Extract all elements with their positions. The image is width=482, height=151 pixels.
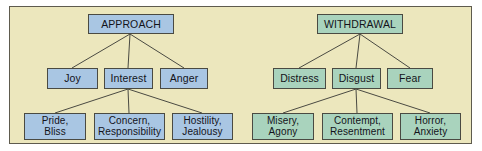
node-concern-responsibility-line1: Concern, [109, 116, 150, 126]
node-hostility-jealousy-line1: Hostility, [183, 116, 221, 126]
node-joy-label: Joy [64, 73, 81, 84]
node-concern-responsibility[interactable]: Concern, Responsibility [94, 113, 165, 140]
node-fear[interactable]: Fear [387, 68, 433, 89]
node-approach[interactable]: APPROACH [88, 14, 174, 34]
node-pride-bliss[interactable]: Pride, Bliss [24, 113, 86, 140]
node-hostility-jealousy[interactable]: Hostility, Jealousy [172, 113, 233, 140]
node-joy[interactable]: Joy [47, 68, 98, 89]
node-horror-anxiety[interactable]: Horror, Anxiety [400, 113, 461, 140]
node-approach-label: APPROACH [101, 19, 161, 30]
node-contempt-resentment-line1: Contempt, [334, 116, 381, 126]
node-concern-responsibility-line2: Responsibility [98, 127, 161, 137]
node-horror-anxiety-line2: Anxiety [414, 127, 448, 137]
node-contempt-resentment-line2: Resentment [330, 127, 385, 137]
diagram-screenshot: APPROACH Joy Interest Anger Pride, Bliss… [0, 0, 482, 151]
node-hostility-jealousy-line2: Jealousy [182, 127, 222, 137]
node-interest-label: Interest [111, 73, 147, 84]
node-anger[interactable]: Anger [160, 68, 208, 89]
node-pride-bliss-line2: Bliss [44, 127, 66, 137]
node-withdrawal[interactable]: WITHDRAWAL [317, 14, 403, 34]
node-misery-agony[interactable]: Misery, Agony [252, 113, 314, 140]
node-misery-agony-line1: Misery, [267, 116, 299, 126]
node-anger-label: Anger [170, 73, 199, 84]
node-disgust-label: Disgust [339, 73, 375, 84]
node-fear-label: Fear [399, 73, 421, 84]
node-pride-bliss-line1: Pride, [42, 116, 69, 126]
node-distress[interactable]: Distress [273, 68, 326, 89]
node-disgust[interactable]: Disgust [332, 68, 381, 89]
node-horror-anxiety-line1: Horror, [415, 116, 446, 126]
node-distress-label: Distress [280, 73, 319, 84]
node-contempt-resentment[interactable]: Contempt, Resentment [322, 113, 393, 140]
node-interest[interactable]: Interest [104, 68, 153, 89]
node-misery-agony-line2: Agony [269, 127, 298, 137]
node-withdrawal-label: WITHDRAWAL [324, 19, 396, 30]
